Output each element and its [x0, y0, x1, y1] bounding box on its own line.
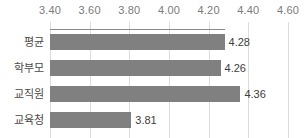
category-label: 학부모: [0, 55, 44, 81]
category-label: 교육청: [0, 107, 44, 133]
category-label: 평균: [0, 29, 44, 55]
bar-row: 학부모4.26: [0, 55, 305, 81]
x-axis: 3.403.603.804.004.204.404.60: [0, 0, 305, 22]
bar-value-label: 4.26: [221, 60, 246, 76]
bar[interactable]: [50, 86, 240, 102]
bar-value-label: 4.36: [240, 86, 265, 102]
bar-row: 평균4.28: [0, 29, 305, 55]
x-tick-label: 4.20: [198, 4, 220, 16]
bar-value-label: 3.81: [131, 112, 156, 128]
bar-row: 교직원4.36: [0, 81, 305, 107]
bar[interactable]: [50, 34, 225, 50]
x-tick-label: 3.60: [79, 4, 101, 16]
category-label: 교직원: [0, 81, 44, 107]
bar[interactable]: [50, 112, 131, 128]
bar-value-label: 4.28: [225, 34, 250, 50]
bar-row: 교육청3.81: [0, 107, 305, 133]
x-tick-label: 3.80: [118, 4, 140, 16]
x-tick-label: 4.00: [158, 4, 180, 16]
bar-chart: 3.403.603.804.004.204.404.60 평균4.28학부모4.…: [0, 0, 305, 138]
x-tick-label: 3.40: [39, 4, 61, 16]
x-tick-label: 4.40: [237, 4, 259, 16]
x-tick-label: 4.60: [277, 4, 299, 16]
bar[interactable]: [50, 60, 221, 76]
